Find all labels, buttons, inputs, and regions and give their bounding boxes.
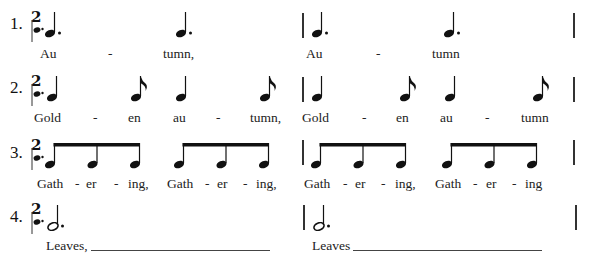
barline	[575, 205, 577, 230]
lyric-extender-line	[91, 250, 270, 251]
lyric: -	[216, 110, 221, 126]
dotted-quarter-icon	[31, 20, 45, 42]
dotted-quarter-note	[443, 12, 463, 38]
time-signature: 2	[30, 203, 46, 229]
lyric: Au	[40, 46, 57, 62]
row-number: 3.	[10, 143, 23, 163]
dotted-quarter-icon	[31, 148, 45, 170]
lyric: er	[355, 176, 366, 192]
dotted-quarter-icon	[31, 84, 45, 106]
lyric: -	[362, 110, 367, 126]
lyric: au	[173, 110, 186, 126]
lyric: en	[396, 110, 409, 126]
lyric: au	[440, 110, 453, 126]
lyric: ing,	[128, 176, 149, 192]
lyric: Gath	[167, 176, 193, 192]
lyric: -	[381, 176, 386, 192]
eighth-note	[130, 76, 150, 102]
lyric: er	[217, 176, 228, 192]
quarter-note	[46, 76, 60, 102]
barline	[302, 140, 304, 165]
lyric: -	[243, 176, 248, 192]
lyric: tumn	[432, 46, 460, 62]
lyric: Leaves	[312, 238, 350, 254]
barline	[573, 13, 575, 38]
beamed-eighth-group	[44, 143, 144, 169]
beamed-eighth-group	[441, 143, 541, 169]
lyric: -	[343, 176, 348, 192]
lyric: -	[485, 110, 490, 126]
lyric: er	[486, 176, 497, 192]
lyric: en	[128, 110, 141, 126]
quarter-note	[311, 76, 325, 102]
barline	[303, 205, 305, 230]
barline	[302, 13, 304, 38]
lyric: er	[86, 176, 97, 192]
lyric: -	[205, 176, 210, 192]
time-signature: 2	[30, 75, 46, 101]
beamed-eighth-group	[310, 143, 410, 169]
lyric: Gath	[304, 176, 330, 192]
dotted-quarter-note	[175, 12, 195, 38]
dotted-quarter-note	[44, 12, 64, 38]
row-number: 4.	[10, 207, 23, 227]
lyric: tumn,	[250, 110, 281, 126]
barline	[573, 77, 575, 102]
row-number: 2.	[10, 78, 23, 98]
lyric: ing,	[395, 176, 416, 192]
quarter-note	[175, 76, 189, 102]
lyric: Leaves,	[46, 238, 88, 254]
lyric: -	[114, 176, 119, 192]
dotted-quarter-icon	[31, 212, 45, 234]
eighth-note	[259, 76, 279, 102]
lyric: ing	[525, 176, 542, 192]
dotted-quarter-note	[311, 12, 331, 38]
lyric-extender-line	[353, 250, 542, 251]
lyric: Au	[306, 46, 323, 62]
lyric: -	[108, 46, 113, 62]
lyric: -	[512, 176, 517, 192]
lyric: Gold	[302, 110, 329, 126]
barline	[302, 77, 304, 102]
barline	[573, 140, 575, 165]
lyric: Gold	[34, 110, 61, 126]
lyric: Gath	[37, 176, 63, 192]
dotted-half-note	[313, 205, 333, 231]
dotted-half-note	[47, 205, 67, 231]
quarter-note	[444, 76, 458, 102]
eighth-note	[399, 76, 419, 102]
lyric: -	[376, 46, 381, 62]
lyric: Gath	[435, 176, 461, 192]
lyric: -	[75, 176, 80, 192]
row-number: 1.	[10, 14, 23, 34]
beamed-eighth-group	[173, 143, 273, 169]
lyric: -	[473, 176, 478, 192]
eighth-note	[532, 76, 552, 102]
lyric: tumn	[521, 110, 549, 126]
lyric: ing,	[256, 176, 277, 192]
lyric: -	[93, 110, 98, 126]
lyric: tumn,	[163, 46, 194, 62]
